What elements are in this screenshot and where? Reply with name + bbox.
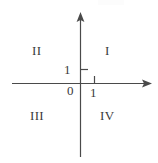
top-edge-artifact — [98, 0, 124, 5]
x-axis-tick-label-1: 1 — [90, 86, 97, 99]
y-axis-tick-label-1: 1 — [64, 63, 71, 76]
quadrant-label-i: I — [105, 44, 110, 57]
quadrant-label-iv: IV — [100, 109, 114, 122]
origin-label: 0 — [67, 84, 74, 97]
quadrant-label-iii: III — [30, 109, 44, 122]
axes-group — [0, 0, 158, 163]
quadrant-label-ii: II — [32, 44, 41, 57]
coordinate-plane-figure: I II III IV 1 1 0 — [0, 0, 158, 163]
